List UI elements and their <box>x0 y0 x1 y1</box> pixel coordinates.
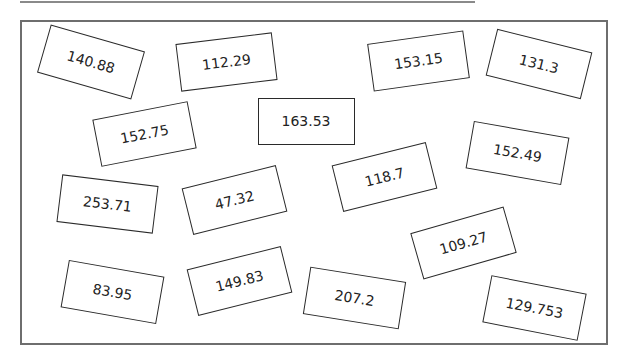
value-label: 140.88 <box>65 48 117 77</box>
value-label: 153.15 <box>393 50 444 73</box>
value-label: 163.53 <box>282 113 331 129</box>
value-label: 253.71 <box>82 193 133 215</box>
value-label: 129.753 <box>504 295 564 322</box>
value-label: 149.83 <box>213 267 264 294</box>
value-label: 83.95 <box>91 281 133 304</box>
value-label: 112.29 <box>201 51 252 73</box>
top-rule <box>20 1 475 3</box>
value-box: 163.53 <box>258 98 355 145</box>
value-label: 118.7 <box>363 164 406 189</box>
value-label: 152.49 <box>491 141 542 165</box>
value-label: 47.32 <box>213 187 256 212</box>
value-label: 131.3 <box>518 51 561 76</box>
value-label: 207.2 <box>333 287 375 309</box>
value-label: 152.75 <box>118 121 169 146</box>
value-label: 109.27 <box>437 229 489 258</box>
